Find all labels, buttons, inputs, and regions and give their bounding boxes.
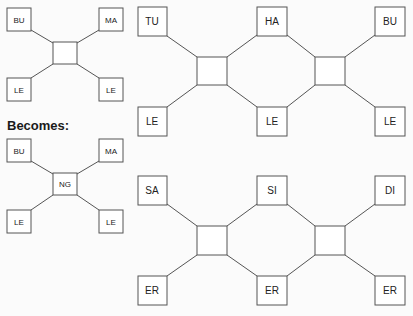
- node-label: BU: [13, 147, 24, 156]
- large-before-center-box-1: [197, 57, 227, 85]
- node-label: BU: [383, 16, 397, 27]
- node-label: LE: [14, 218, 24, 227]
- diagram-canvas: BU MA LE LE BU MA NG LE LE TU HA BU LE L…: [0, 0, 413, 316]
- node-label: SA: [145, 185, 159, 196]
- node-label: TU: [145, 16, 158, 27]
- large-before-center-box-2: [315, 57, 345, 85]
- node-label: ER: [383, 285, 397, 296]
- node-label: HA: [265, 16, 279, 27]
- small-before-center-box: [53, 42, 77, 64]
- node-label: ER: [145, 285, 159, 296]
- node-label: LE: [266, 116, 279, 127]
- large-after-center-box-2: [315, 226, 345, 255]
- becomes-caption: Becomes:: [7, 118, 69, 133]
- node-label: DI: [385, 185, 395, 196]
- node-label: ER: [265, 285, 279, 296]
- center-label: NG: [59, 180, 71, 189]
- node-label: LE: [106, 86, 116, 95]
- node-label: SI: [267, 185, 276, 196]
- node-label: LE: [106, 218, 116, 227]
- large-after-center-box-1: [197, 226, 227, 255]
- node-label: LE: [384, 116, 397, 127]
- node-label: LE: [146, 116, 159, 127]
- node-label: BU: [13, 16, 24, 25]
- node-label: MA: [105, 16, 118, 25]
- node-label: LE: [14, 86, 24, 95]
- node-label: MA: [105, 147, 118, 156]
